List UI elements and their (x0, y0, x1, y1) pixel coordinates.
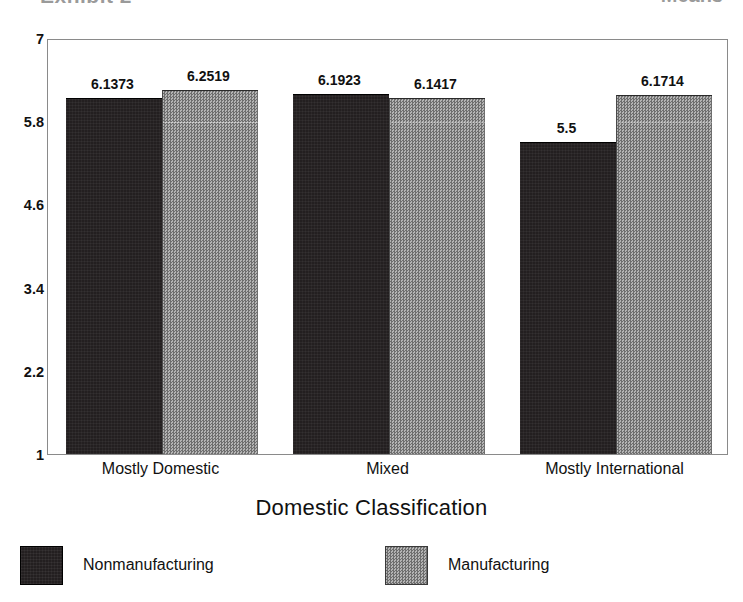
plot-area (47, 39, 728, 455)
bar-value-label: 6.1373 (65, 77, 161, 91)
bar-manufacturing (389, 98, 485, 454)
faint-gridline (163, 122, 258, 123)
y-tick-label: 5.8 (2, 115, 44, 130)
bar-nonmanufacturing (520, 142, 616, 454)
clipped-title-strip: Exhibit 2 Means (0, 0, 743, 12)
y-tick-label: 4.6 (2, 198, 44, 213)
x-tick-label: Mostly Domestic (47, 460, 274, 478)
bar-manufacturing (162, 90, 258, 454)
x-tick-label: Mixed (274, 460, 501, 478)
legend-item[interactable]: Nonmanufacturing (20, 543, 214, 587)
bar-value-label: 6.2519 (161, 69, 257, 83)
legend-swatch-dark (20, 546, 63, 585)
x-tick-label: Mostly International (501, 460, 728, 478)
y-tick-label: 3.4 (2, 282, 44, 297)
faint-gridline (390, 122, 485, 123)
bar-value-label: 6.1417 (388, 77, 484, 91)
bar-nonmanufacturing (66, 98, 162, 454)
legend-swatch-gray (385, 546, 428, 585)
x-axis-title: Domestic Classification (0, 495, 743, 521)
bar-chart: Exhibit 2 Means 75.84.63.42.21 Mostly Do… (0, 0, 743, 602)
bar-manufacturing (616, 95, 712, 454)
bar-value-label: 5.5 (519, 121, 615, 135)
clipped-title-right: Means (661, 0, 723, 7)
bar-nonmanufacturing (293, 94, 389, 454)
y-tick-label: 1 (2, 448, 44, 463)
faint-gridline (617, 122, 712, 123)
y-tick-label: 2.2 (2, 365, 44, 380)
legend-item[interactable]: Manufacturing (385, 543, 549, 587)
y-tick-label: 7 (2, 32, 44, 47)
legend-label: Manufacturing (448, 556, 549, 574)
chart-legend: NonmanufacturingManufacturing (0, 543, 743, 593)
bar-value-label: 6.1923 (292, 73, 388, 87)
legend-label: Nonmanufacturing (83, 556, 214, 574)
plot-inner (48, 40, 727, 454)
clipped-title-left: Exhibit 2 (40, 0, 132, 8)
bar-value-label: 6.1714 (615, 74, 711, 88)
y-axis: 75.84.63.42.21 (0, 39, 44, 455)
